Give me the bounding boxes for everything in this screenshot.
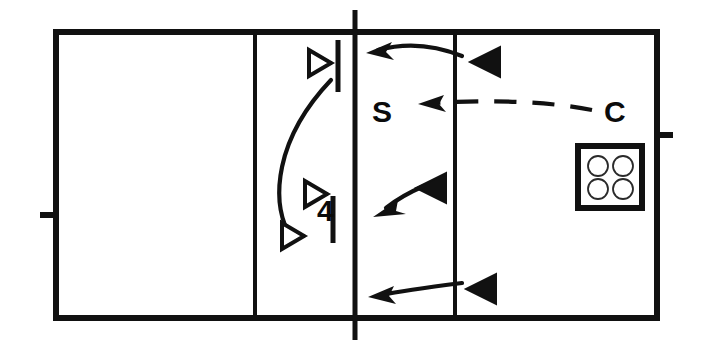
- court-svg: S C 4: [0, 0, 701, 350]
- cart-ball-3: [588, 179, 608, 199]
- cart-ball-1: [588, 156, 608, 176]
- hollow-player-bottom: [282, 223, 304, 249]
- setter-label: S: [372, 95, 392, 128]
- filled-player-bottom: [466, 274, 496, 304]
- coach-toss-arrowhead: [418, 95, 446, 112]
- ball-path-top-arrowhead: [366, 42, 394, 60]
- player-number-label: 4: [317, 194, 334, 227]
- coach-label: C: [604, 95, 626, 128]
- filled-player-top: [470, 47, 500, 77]
- ball-cart: [578, 146, 642, 208]
- volleyball-court-diagram: S C 4: [0, 0, 701, 350]
- coach-toss-path: [435, 101, 592, 110]
- hollow-player-top: [309, 50, 331, 76]
- cart-ball-4: [613, 179, 633, 199]
- ball-path-top: [378, 46, 462, 56]
- ball-path-bottom: [382, 283, 462, 295]
- cart-ball-2: [613, 156, 633, 176]
- ball-path-middle-arrowhead: [373, 200, 406, 217]
